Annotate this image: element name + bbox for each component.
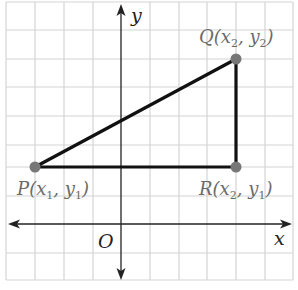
point-r [231,162,242,173]
point-p-label: P(x1, y1) [17,180,89,201]
point-q-label: Q(x2, y2) [199,28,274,49]
x-axis-label: x [274,229,285,248]
y-axis-label: y [131,6,142,25]
point-r-label: R(x2, y1) [199,180,272,201]
point-q-name: Q [199,26,214,47]
point-p-y-sub: 1 [75,189,82,202]
point-q-y-sub: 2 [260,37,267,50]
point-p-name: P [17,178,29,199]
point-r-name: R [199,178,213,199]
coordinate-diagram: y x O Q(x2, y2) P(x1, y1) R(x2, y1) [0,0,298,290]
point-p-x-sub: 1 [46,189,53,202]
triangle [35,59,236,167]
point-r-x-sub: 2 [230,189,237,202]
point-p [30,162,41,173]
point-q-x-sub: 2 [231,37,238,50]
origin-label: O [98,232,114,251]
segment-pq [35,59,236,167]
point-q [231,54,242,65]
point-r-y-sub: 1 [258,189,265,202]
